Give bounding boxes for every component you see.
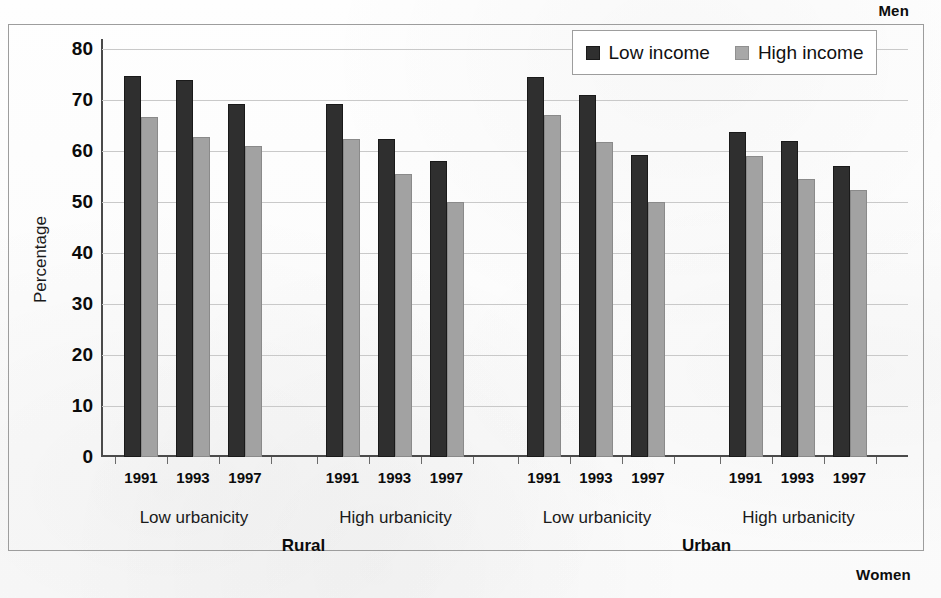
x-tick	[369, 457, 370, 464]
x-tick	[271, 457, 272, 464]
bar-low-income	[326, 104, 343, 457]
gridline-70	[102, 100, 908, 101]
urbanicity-label: Low urbanicity	[543, 508, 652, 528]
bar-low-income	[781, 141, 798, 457]
year-label: 1991	[326, 469, 359, 486]
y-tick-label-0: 0	[82, 446, 93, 468]
bar-high-income	[395, 174, 412, 457]
legend-label-low-income: Low income	[609, 42, 710, 64]
x-tick	[824, 457, 825, 464]
y-axis-line	[101, 39, 103, 457]
y-tick-label-10: 10	[72, 395, 93, 417]
year-label: 1991	[124, 469, 157, 486]
bar-high-income	[596, 142, 613, 457]
x-tick	[219, 457, 220, 464]
region-label: Urban	[682, 536, 731, 556]
legend-swatch-high-income-icon	[735, 46, 749, 60]
x-tick	[876, 457, 877, 464]
bar-low-income	[833, 166, 850, 457]
bar-high-income	[343, 139, 360, 457]
y-tick-label-80: 80	[72, 38, 93, 60]
y-axis-title: Percentage	[1, 0, 21, 173]
x-tick	[674, 457, 675, 464]
plot-area: 01020304050607080	[102, 49, 908, 457]
y-tick-label-60: 60	[72, 140, 93, 162]
bar-low-income	[527, 77, 544, 457]
bar-low-income	[631, 155, 648, 457]
legend-item-high-income[interactable]: High income	[735, 42, 864, 64]
bar-low-income	[729, 132, 746, 457]
y-axis-title-text: Percentage	[31, 216, 51, 303]
y-tick-label-40: 40	[72, 242, 93, 264]
women-caption: Women	[856, 566, 911, 583]
x-tick	[720, 457, 721, 464]
y-tick-label-20: 20	[72, 344, 93, 366]
x-tick	[167, 457, 168, 464]
chart-legend: Low income High income	[572, 30, 877, 75]
y-tick-label-70: 70	[72, 89, 93, 111]
year-label: 1993	[378, 469, 411, 486]
y-tick-label-50: 50	[72, 191, 93, 213]
x-tick	[772, 457, 773, 464]
bar-high-income	[193, 137, 210, 457]
legend-swatch-low-income-icon	[586, 46, 600, 60]
year-label: 1997	[833, 469, 866, 486]
x-tick	[473, 457, 474, 464]
bar-low-income	[430, 161, 447, 457]
urbanicity-label: High urbanicity	[742, 508, 854, 528]
year-label: 1993	[781, 469, 814, 486]
year-label: 1997	[631, 469, 664, 486]
bar-low-income	[579, 95, 596, 457]
year-label: 1993	[176, 469, 209, 486]
year-label: 1997	[430, 469, 463, 486]
men-caption: Men	[878, 2, 909, 19]
x-tick	[317, 457, 318, 464]
bar-low-income	[228, 104, 245, 457]
x-tick	[622, 457, 623, 464]
bar-high-income	[648, 202, 665, 457]
bar-high-income	[447, 202, 464, 457]
bar-high-income	[544, 115, 561, 457]
legend-item-low-income[interactable]: Low income	[586, 42, 710, 64]
year-label: 1993	[579, 469, 612, 486]
bar-high-income	[850, 190, 867, 457]
x-tick	[421, 457, 422, 464]
y-tick-label-30: 30	[72, 293, 93, 315]
bar-high-income	[245, 146, 262, 457]
bar-low-income	[176, 80, 193, 457]
bar-high-income	[746, 156, 763, 457]
x-tick	[570, 457, 571, 464]
bar-high-income	[141, 117, 158, 457]
legend-label-high-income: High income	[758, 42, 864, 64]
region-label: Rural	[282, 536, 325, 556]
bar-low-income	[124, 76, 141, 457]
year-label: 1997	[228, 469, 261, 486]
urbanicity-label: Low urbanicity	[140, 508, 249, 528]
x-tick	[518, 457, 519, 464]
chart-frame: Percentage 01020304050607080 19911993199…	[8, 24, 924, 551]
year-label: 1991	[729, 469, 762, 486]
bar-low-income	[378, 139, 395, 457]
x-tick	[115, 457, 116, 464]
urbanicity-label: High urbanicity	[339, 508, 451, 528]
bar-high-income	[798, 179, 815, 457]
year-label: 1991	[527, 469, 560, 486]
